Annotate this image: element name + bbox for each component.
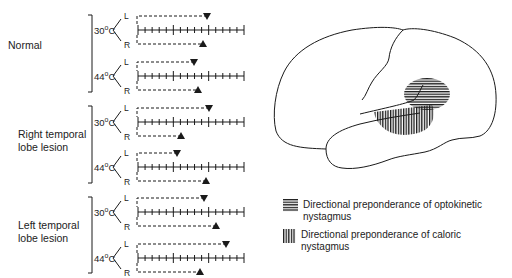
L-dashed-line bbox=[137, 108, 209, 117]
group-brackets bbox=[88, 15, 92, 273]
brain-diagram bbox=[274, 27, 496, 168]
lr-branch bbox=[113, 111, 121, 133]
scale-row bbox=[113, 150, 244, 184]
scale-row bbox=[113, 105, 244, 139]
R-dashed-line bbox=[137, 81, 198, 90]
legend-optokinetic-text: Directional preponderance of optokinetic… bbox=[303, 199, 503, 223]
scale-row bbox=[113, 13, 244, 47]
L-dashed-line bbox=[137, 244, 226, 253]
scale-row bbox=[113, 59, 244, 93]
R-marker-up-triangle-icon bbox=[196, 268, 204, 275]
lr-branch bbox=[113, 19, 121, 41]
L-dashed-line bbox=[137, 198, 204, 207]
horizontal-hatch-icon bbox=[283, 199, 298, 212]
caloric-hatch-region bbox=[374, 105, 434, 135]
R-dashed-line bbox=[137, 217, 216, 226]
L-dashed-line bbox=[137, 62, 194, 71]
scale-row bbox=[113, 241, 244, 275]
legend-caloric: Directional preponderance of caloric nys… bbox=[283, 229, 501, 253]
scale-row bbox=[113, 195, 244, 229]
lr-branch bbox=[113, 156, 121, 178]
lr-branch bbox=[113, 201, 121, 223]
legend-optokinetic: Directional preponderance of optokinetic… bbox=[283, 199, 503, 223]
lr-branch bbox=[113, 65, 121, 87]
R-dashed-line bbox=[137, 35, 203, 44]
L-dashed-line bbox=[137, 153, 177, 162]
brain-outline bbox=[274, 27, 496, 168]
legend-caloric-text: Directional preponderance of caloric nys… bbox=[301, 229, 501, 253]
lr-branch bbox=[113, 247, 121, 269]
R-dashed-line bbox=[137, 263, 200, 272]
L-dashed-line bbox=[137, 16, 207, 25]
central-sulcus bbox=[362, 30, 403, 100]
R-dashed-line bbox=[137, 172, 206, 181]
vertical-hatch-icon bbox=[283, 229, 296, 243]
R-dashed-line bbox=[137, 127, 181, 136]
optokinetic-hatch-region bbox=[404, 78, 450, 110]
